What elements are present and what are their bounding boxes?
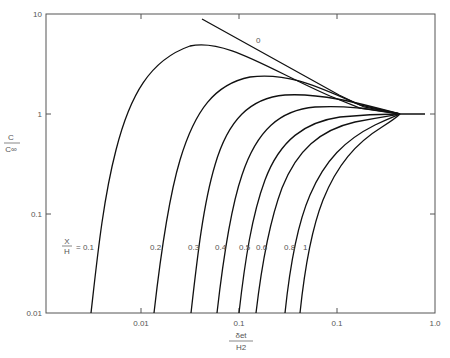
curve-1 <box>300 114 400 313</box>
curve-0-3 <box>191 95 400 313</box>
curve-0-6 <box>256 114 400 313</box>
label-0-2: 0.2 <box>150 243 162 252</box>
y-tick-10: 10 <box>33 10 42 19</box>
label-0-5: 0.5 <box>239 243 251 252</box>
svg-text:δet: δet <box>235 331 247 340</box>
x-axis: 0.01 0.1 0.1 1.0 <box>133 14 441 328</box>
label-0-3: 0.3 <box>188 243 200 252</box>
y-axis: 10 1 0.1 0.01 <box>26 10 435 318</box>
legend-h-denominator: H <box>64 247 70 256</box>
legend-x-numerator: X <box>64 237 70 246</box>
x-axis-title: δet H2 <box>229 331 253 352</box>
curve-0-5 <box>239 114 400 313</box>
label-0: 0 <box>256 36 261 45</box>
curve-0-8 <box>285 114 400 313</box>
curve-0-1 <box>91 45 425 313</box>
curve-0-4 <box>217 107 400 313</box>
svg-text:C∞: C∞ <box>5 145 17 154</box>
plot-frame <box>46 14 435 313</box>
x-tick-1-0: 1.0 <box>429 319 441 328</box>
label-0-1: = 0.1 <box>76 243 95 252</box>
label-0-4: 0.4 <box>215 243 227 252</box>
label-1: 1 <box>303 243 308 252</box>
y-axis-title: C C∞ <box>4 133 20 154</box>
curve-0 <box>202 19 400 114</box>
log-log-chart: 10 1 0.1 0.01 C C∞ 0.01 0.1 0.1 1.0 δet … <box>0 0 450 358</box>
y-tick-1: 1 <box>38 110 43 119</box>
y-tick-0-1: 0.1 <box>31 210 43 219</box>
x-tick-0-1b: 0.1 <box>331 319 343 328</box>
label-0-6: 0.6 <box>256 243 268 252</box>
svg-text:C: C <box>8 133 14 142</box>
x-tick-0-01: 0.01 <box>133 319 149 328</box>
curve-0-2 <box>154 76 400 313</box>
svg-text:H2: H2 <box>236 343 247 352</box>
curves <box>91 19 425 313</box>
x-tick-0-1: 0.1 <box>233 319 245 328</box>
y-tick-0-01: 0.01 <box>26 309 42 318</box>
label-0-8: 0.8 <box>284 243 296 252</box>
